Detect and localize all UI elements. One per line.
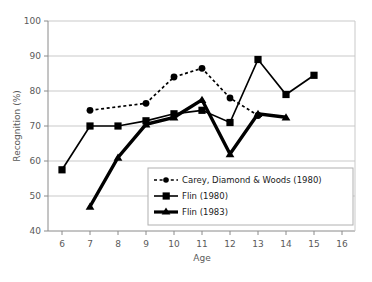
data-point-flin-1980-age-15 (310, 72, 317, 79)
legend-entry-flin-1980: Flin (1980) (154, 191, 228, 201)
data-point-carey-diamond-woods-1980-age-11 (199, 65, 206, 72)
data-point-flin-1980-age-8 (114, 122, 121, 129)
y-tick-label-50: 50 (30, 191, 42, 201)
legend-label-0: Carey, Diamond & Woods (1980) (182, 175, 322, 185)
y-tick-label-70: 70 (30, 121, 42, 131)
y-tick-label-100: 100 (24, 16, 41, 26)
x-tick-label-9: 9 (143, 239, 149, 249)
x-tick-label-13: 13 (252, 239, 263, 249)
chart-legend: Carey, Diamond & Woods (1980) Flin (1980… (148, 168, 353, 225)
y-tick-label-80: 80 (30, 86, 42, 96)
data-point-flin-1980-age-13 (254, 56, 261, 63)
x-tick-label-11: 11 (196, 239, 207, 249)
data-point-flin-1980-age-12 (226, 119, 233, 126)
legend-circle-marker-icon (163, 177, 169, 183)
data-point-flin-1980-age-7 (86, 122, 93, 129)
x-tick-label-14: 14 (280, 239, 292, 249)
data-point-carey-diamond-woods-1980-age-12 (227, 95, 234, 102)
y-axis-title: Recognition (%) (12, 90, 22, 161)
y-tick-label-40: 40 (30, 226, 42, 236)
legend-square-marker-icon (163, 192, 170, 199)
x-tick-label-15: 15 (308, 239, 319, 249)
x-tick-label-6: 6 (59, 239, 65, 249)
data-point-carey-diamond-woods-1980-age-10 (171, 74, 178, 81)
data-point-carey-diamond-woods-1980-age-9 (143, 100, 150, 107)
data-point-flin-1980-age-14 (282, 91, 289, 98)
x-tick-label-8: 8 (115, 239, 121, 249)
x-tick-label-10: 10 (168, 239, 180, 249)
data-point-carey-diamond-woods-1980-age-7 (87, 107, 94, 114)
x-tick-label-7: 7 (87, 239, 93, 249)
y-tick-label-60: 60 (30, 156, 42, 166)
x-axis-title: Age (193, 253, 211, 263)
y-tick-label-90: 90 (30, 51, 42, 61)
data-point-flin-1980-age-6 (58, 166, 65, 173)
legend-label-2: Flin (1983) (182, 207, 228, 217)
chart-container: 100 90 80 70 60 50 40 6 7 8 9 (0, 0, 372, 282)
recognition-vs-age-line-chart: 100 90 80 70 60 50 40 6 7 8 9 (0, 0, 372, 282)
x-tick-label-12: 12 (224, 239, 235, 249)
legend-label-1: Flin (1980) (182, 191, 228, 201)
x-tick-label-16: 16 (336, 239, 348, 249)
